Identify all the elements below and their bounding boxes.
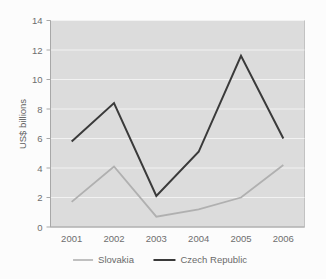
y-tick-label: 4: [37, 163, 42, 174]
line-chart: 02468101214 200120022003200420052006 US$…: [0, 0, 326, 279]
y-tick-label: 8: [37, 104, 42, 115]
y-tick-label: 14: [32, 15, 43, 26]
y-tick-label: 6: [37, 133, 42, 144]
legend-label-czech-republic: Czech Republic: [180, 254, 247, 265]
x-tick-label: 2006: [273, 233, 294, 244]
x-tick-label: 2001: [61, 233, 82, 244]
y-tick-label: 12: [32, 45, 43, 56]
y-tick-label: 10: [32, 74, 43, 85]
x-tick-label: 2005: [230, 233, 251, 244]
plot-area-background: [51, 21, 305, 228]
y-tick-label: 2: [37, 192, 42, 203]
y-tick-label: 0: [37, 222, 42, 233]
y-axis-title: US$ billions: [17, 99, 28, 149]
x-tick-label: 2003: [146, 233, 167, 244]
x-tick-label: 2004: [188, 233, 209, 244]
chart-container: 02468101214 200120022003200420052006 US$…: [0, 0, 326, 279]
legend-label-slovakia: Slovakia: [98, 254, 135, 265]
x-tick-label: 2002: [103, 233, 124, 244]
